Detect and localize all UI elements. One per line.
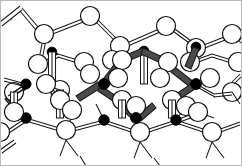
figure-root: [0, 0, 242, 166]
atom-filled-circle: [99, 115, 109, 125]
atom-open-circle: [157, 17, 176, 36]
atom-open-circle: [223, 25, 242, 44]
atom-open-circle: [189, 103, 208, 122]
atom-open-circle: [131, 123, 150, 142]
atom-open-circle: [81, 7, 100, 26]
crystal-lattice-diagram: [0, 0, 242, 166]
